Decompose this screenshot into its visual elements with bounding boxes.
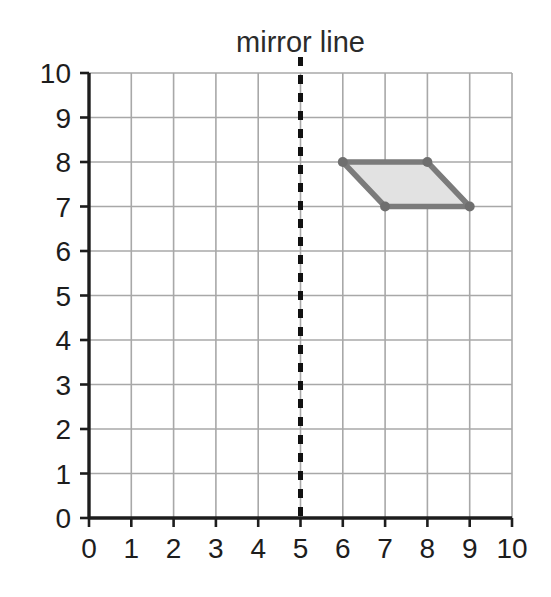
- y-axis-label-4: 4: [55, 325, 71, 356]
- vertex-point-(8,8): [422, 157, 432, 167]
- figure-background: [0, 0, 551, 597]
- x-axis-label-2: 2: [166, 533, 182, 564]
- x-axis-label-0: 0: [81, 533, 97, 564]
- y-axis-label-7: 7: [55, 192, 71, 223]
- y-axis-label-9: 9: [55, 103, 71, 134]
- x-axis-label-9: 9: [462, 533, 478, 564]
- y-axis-label-2: 2: [55, 414, 71, 445]
- x-axis-label-10: 10: [496, 533, 527, 564]
- vertex-point-(6,8): [338, 157, 348, 167]
- coordinate-grid-plot: 012345678910012345678910 mirror line: [0, 0, 551, 597]
- y-axis-label-5: 5: [55, 281, 71, 312]
- x-axis-label-1: 1: [124, 533, 140, 564]
- x-axis-label-8: 8: [420, 533, 436, 564]
- x-axis-label-6: 6: [335, 533, 351, 564]
- y-axis-label-10: 10: [40, 58, 71, 89]
- vertex-point-(7,7): [380, 202, 390, 212]
- y-axis-label-1: 1: [55, 459, 71, 490]
- x-axis-label-7: 7: [377, 533, 393, 564]
- y-axis-label-3: 3: [55, 370, 71, 401]
- page-title: mirror line: [236, 26, 365, 58]
- y-axis-label-6: 6: [55, 236, 71, 267]
- x-axis-label-3: 3: [208, 533, 224, 564]
- x-axis-label-4: 4: [250, 533, 266, 564]
- vertex-point-(9,7): [465, 202, 475, 212]
- y-axis-label-8: 8: [55, 147, 71, 178]
- mirror-line-grid-figure: 012345678910012345678910 mirror line: [0, 0, 551, 597]
- y-axis-label-0: 0: [55, 503, 71, 534]
- x-axis-label-5: 5: [293, 533, 309, 564]
